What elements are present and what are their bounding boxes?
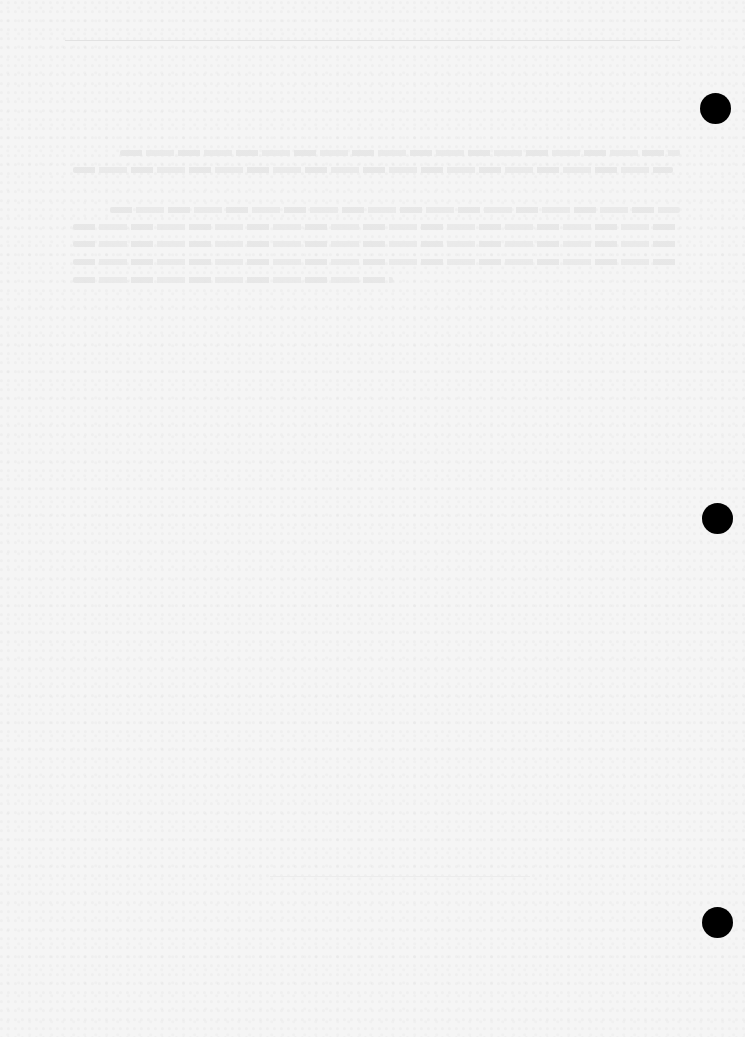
punch-hole-icon — [700, 93, 731, 124]
faded-text-line — [73, 167, 673, 173]
punch-hole-icon — [702, 907, 733, 938]
faded-text-line — [120, 150, 680, 156]
faded-text-line — [73, 277, 393, 283]
faded-text-line — [110, 207, 680, 213]
faded-text-line — [73, 241, 678, 247]
faded-text-line — [73, 224, 678, 230]
top-rule — [65, 40, 680, 41]
faded-text-line — [73, 259, 678, 265]
punch-hole-icon — [702, 503, 733, 534]
scanned-page — [0, 0, 745, 1037]
bottom-rule — [270, 876, 530, 877]
